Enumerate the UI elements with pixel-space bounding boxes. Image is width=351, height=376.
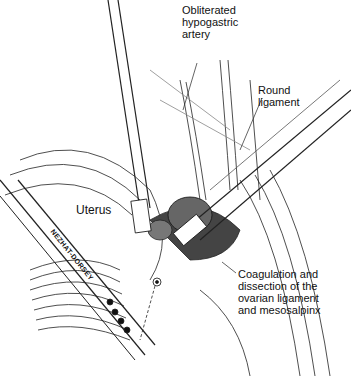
label-hypogastric-artery: Obliterated hypogastric artery [182, 4, 238, 40]
label-line: dissection of the [238, 280, 321, 292]
label-line: artery [182, 28, 238, 40]
label-line: Coagulation and [238, 268, 321, 280]
label-line: Obliterated [182, 4, 238, 16]
label-line: Round [258, 84, 300, 96]
surgical-drawing [0, 0, 351, 376]
label-line: ovarian ligament [238, 292, 321, 304]
label-line: ligament [258, 96, 300, 108]
label-line: and mesosalpinx [238, 304, 321, 316]
label-coagulation: Coagulation and dissection of the ovaria… [238, 268, 321, 316]
label-uterus: Uterus [76, 204, 111, 216]
label-round-ligament: Round ligament [258, 84, 300, 108]
illustration: Obliterated hypogastric artery Round lig… [0, 0, 351, 376]
label-line: hypogastric [182, 16, 238, 28]
